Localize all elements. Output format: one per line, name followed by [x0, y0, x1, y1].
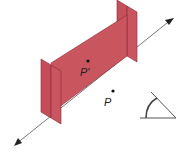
- arrowhead-bottom-left-icon: [14, 138, 22, 146]
- reflection-diagram: P' P: [0, 0, 184, 153]
- angle-icon: [140, 92, 176, 118]
- point-p-label: P: [104, 96, 112, 108]
- point-p-prime-label: P': [80, 66, 90, 78]
- point-p: P: [104, 89, 115, 108]
- point-p-prime-dot: [86, 59, 89, 62]
- point-p-dot: [111, 89, 114, 92]
